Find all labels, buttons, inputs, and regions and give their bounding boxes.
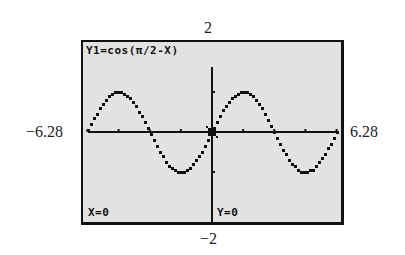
curve-pixel xyxy=(234,95,237,98)
curve-pixel xyxy=(282,149,285,152)
y-tick xyxy=(212,91,215,93)
curve-pixel xyxy=(138,111,141,114)
curve-pixel xyxy=(123,93,126,96)
curve-pixel xyxy=(156,145,159,148)
trace-cursor xyxy=(208,128,216,136)
curve-pixel xyxy=(321,157,324,160)
curve-pixel xyxy=(189,167,192,170)
curve-pixel xyxy=(162,155,165,158)
curve-pixel xyxy=(180,171,183,174)
curve-pixel xyxy=(153,139,156,142)
curve-pixel xyxy=(87,129,90,132)
y-tick xyxy=(212,171,215,173)
curve-pixel xyxy=(252,95,255,98)
curve-pixel xyxy=(216,121,219,124)
curve-pixel xyxy=(330,143,333,146)
curve-pixel xyxy=(231,97,234,100)
curve-pixel xyxy=(246,91,249,94)
curve-pixel xyxy=(261,107,264,110)
curve-pixel xyxy=(327,147,330,150)
curve-pixel xyxy=(219,115,222,118)
curve-pixel xyxy=(198,155,201,158)
curve-pixel xyxy=(132,101,135,104)
x-tick xyxy=(180,129,182,132)
curve-pixel xyxy=(267,119,270,122)
curve-pixel xyxy=(135,105,138,108)
curve-pixel xyxy=(243,91,246,94)
curve-pixel xyxy=(147,127,150,130)
curve-pixel xyxy=(312,169,315,172)
curve-pixel xyxy=(183,171,186,174)
curve-pixel xyxy=(129,97,132,100)
curve-pixel xyxy=(303,171,306,174)
equation-label: Y1=cos(π/2-X) xyxy=(86,45,179,56)
curve-pixel xyxy=(228,101,231,104)
ymax-label: 2 xyxy=(204,20,212,36)
curve-pixel xyxy=(165,161,168,164)
curve-pixel xyxy=(258,103,261,106)
curve-pixel xyxy=(111,93,114,96)
curve-pixel xyxy=(117,91,120,94)
curve-pixel xyxy=(171,167,174,170)
curve-pixel xyxy=(177,171,180,174)
trace-cursor-mark xyxy=(206,126,208,128)
curve-pixel xyxy=(288,159,291,162)
curve-pixel xyxy=(222,109,225,112)
graph-plot xyxy=(83,42,341,222)
curve-pixel xyxy=(309,169,312,172)
curve-pixel xyxy=(318,161,321,164)
curve-pixel xyxy=(144,121,147,124)
curve-pixel xyxy=(150,133,153,136)
curve-pixel xyxy=(264,113,267,116)
xmin-label: −6.28 xyxy=(26,124,63,140)
calculator-screen: Y1=cos(π/2-X) X=0 Y=0 xyxy=(81,40,344,225)
curve-pixel xyxy=(336,131,339,134)
curve-pixel xyxy=(120,91,123,94)
curve-pixel xyxy=(168,165,171,168)
curve-pixel xyxy=(96,113,99,116)
ymin-label: −2 xyxy=(200,231,217,247)
curve-pixel xyxy=(99,107,102,110)
curve-pixel xyxy=(126,95,129,98)
curve-pixel xyxy=(102,103,105,106)
curve-pixel xyxy=(315,165,318,168)
curve-pixel xyxy=(306,171,309,174)
curve-pixel xyxy=(291,163,294,166)
curve-pixel xyxy=(276,137,279,140)
curve-pixel xyxy=(300,171,303,174)
curve-pixel xyxy=(141,115,144,118)
x-readout: X=0 xyxy=(88,207,109,218)
curve-pixel xyxy=(90,123,93,126)
curve-pixel xyxy=(294,165,297,168)
curve-pixel xyxy=(105,99,108,102)
curve-pixel xyxy=(240,91,243,94)
curve-pixel xyxy=(324,153,327,156)
curve-pixel xyxy=(195,159,198,162)
curve-pixel xyxy=(192,163,195,166)
curve-pixel xyxy=(285,153,288,156)
curve-pixel xyxy=(333,137,336,140)
curve-pixel xyxy=(204,145,207,148)
curve-pixel xyxy=(255,99,258,102)
curve-pixel xyxy=(186,169,189,172)
xmax-label: 6.28 xyxy=(350,124,378,140)
curve-pixel xyxy=(114,91,117,94)
curve-pixel xyxy=(279,143,282,146)
curve-pixel xyxy=(225,105,228,108)
x-tick xyxy=(118,129,120,132)
curve-pixel xyxy=(270,125,273,128)
y-readout: Y=0 xyxy=(217,207,238,218)
curve-pixel xyxy=(201,151,204,154)
curve-pixel xyxy=(273,131,276,134)
curve-pixel xyxy=(297,169,300,172)
curve-pixel xyxy=(108,95,111,98)
curve-pixel xyxy=(93,117,96,120)
curve-pixel xyxy=(249,93,252,96)
trace-cursor-mark xyxy=(216,136,218,138)
x-tick xyxy=(242,129,244,132)
curve-pixel xyxy=(174,169,177,172)
curve-pixel xyxy=(237,93,240,96)
curve-pixel xyxy=(207,139,210,142)
curve-pixel xyxy=(159,151,162,154)
x-tick xyxy=(304,129,306,132)
